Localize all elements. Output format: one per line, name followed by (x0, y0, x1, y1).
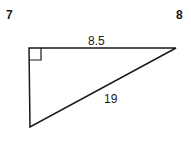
right-triangle-diagram (0, 0, 191, 141)
top-side-length-label: 8.5 (88, 34, 105, 48)
right-angle-marker-icon (29, 48, 41, 60)
triangle-shape (29, 48, 176, 127)
hypotenuse-length-label: 19 (104, 92, 117, 106)
